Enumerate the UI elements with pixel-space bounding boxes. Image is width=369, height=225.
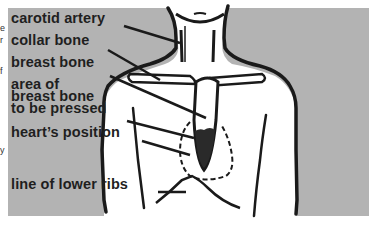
edge-fragment: f	[0, 67, 3, 76]
label-to-be-pressed: to be pressed	[11, 102, 107, 114]
label-collar-bone: collar bone	[11, 34, 89, 46]
neck-left-line	[181, 30, 182, 62]
leader-carotid	[124, 26, 180, 43]
edge-fragment: y	[0, 146, 5, 155]
edge-fragment: e	[0, 24, 5, 33]
mouth-line	[194, 13, 206, 14]
label-hearts-position: heart’s position	[11, 126, 120, 138]
edge-fragment: r	[0, 36, 3, 45]
collar-bone-left	[128, 74, 195, 84]
label-lower-ribs: line of lower ribs	[11, 178, 128, 190]
neck-right-line	[213, 30, 214, 62]
label-carotid-artery: carotid artery	[11, 12, 105, 24]
label-breast-bone: breast bone	[11, 56, 94, 68]
